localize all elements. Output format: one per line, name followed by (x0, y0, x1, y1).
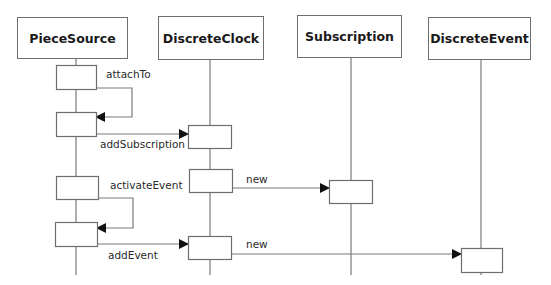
participant-label: DiscreteClock (163, 31, 259, 46)
message-label-addevent: addEvent (108, 249, 158, 261)
message-label-new-discreteevent: new (246, 238, 268, 250)
messages (96, 88, 461, 254)
activation-box-piecesource[interactable] (57, 177, 99, 200)
sequence-diagram: PieceSource DiscreteClock Subscription D… (0, 0, 551, 285)
activation-box-discreteclock[interactable] (189, 237, 232, 260)
activation-box-piecesource[interactable] (57, 113, 97, 137)
activation-box-piecesource[interactable] (56, 223, 98, 247)
activation-box-subscription[interactable] (330, 181, 373, 204)
activation-box-piecesource[interactable] (57, 66, 97, 90)
message-arrow-attachto[interactable] (96, 88, 132, 117)
activation-box-discreteevent[interactable] (462, 249, 503, 273)
activation-box-discreteclock[interactable] (189, 126, 232, 149)
message-label-attachto: attachTo (106, 68, 151, 80)
participant-label: DiscreteEvent (430, 31, 529, 46)
message-label-new-subscription: new (246, 173, 268, 185)
participant-label: Subscription (305, 29, 394, 44)
activation-box-discreteclock[interactable] (190, 170, 233, 193)
participant-discreteclock[interactable]: DiscreteClock (158, 16, 264, 60)
participant-label: PieceSource (29, 31, 115, 46)
activations (56, 66, 503, 273)
participant-discreteevent[interactable]: DiscreteEvent (428, 17, 531, 60)
message-label-addsubscription: addSubscription (100, 138, 185, 150)
message-label-activateevent: activateEvent (110, 179, 183, 191)
lifelines (76, 58, 481, 275)
participant-subscription[interactable]: Subscription (297, 15, 402, 58)
participant-piecesource[interactable]: PieceSource (17, 17, 128, 59)
message-arrow-activateevent[interactable] (97, 198, 133, 228)
